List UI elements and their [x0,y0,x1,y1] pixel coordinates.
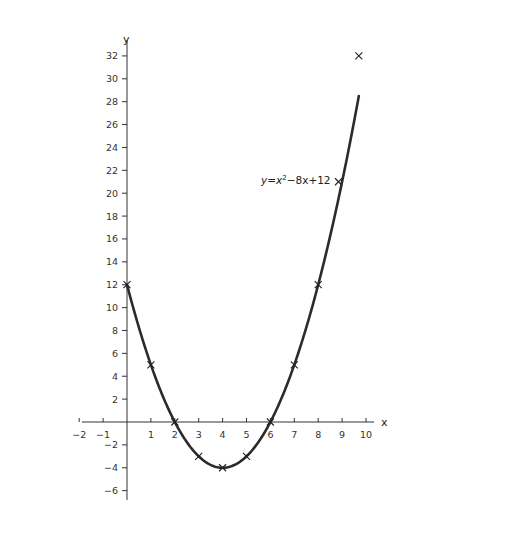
y-tick-label: 20 [106,188,118,199]
y-tick-label: 6 [112,348,118,359]
parabola-curve [127,96,359,468]
point-marker [195,453,202,460]
y-tick-label: 30 [106,73,118,84]
y-axis-label: y [123,33,130,46]
y-tick-label: 4 [112,371,118,382]
equation-suffix: −8x+12 [287,174,331,186]
y-tick-label: 22 [106,165,118,176]
y-tick-label: 2 [112,394,118,405]
y-tick-label: 26 [106,119,118,130]
y-tick-label: 14 [106,256,118,267]
parabola-chart: x y −2−112345678910 −6−4−224681012141618… [0,0,512,533]
x-tick-label: 2 [172,429,178,440]
y-tick-label: 8 [112,325,118,336]
y-tick-label: 18 [106,211,118,222]
y-tick-label: 28 [106,96,118,107]
y-tick-label: 10 [106,302,118,313]
x-tick-label: 3 [196,429,202,440]
y-tick-label: 32 [106,50,118,61]
data-point-markers [124,52,363,471]
equation-prefix: y=x [260,174,283,186]
y-tick-label: −6 [104,485,118,496]
x-tick-label: 7 [291,429,297,440]
x-axis-label: x [381,416,388,429]
equation-label: y=x2−8x+12 [260,174,331,186]
y-tick-label: −4 [104,462,118,473]
y-tick-label: 16 [106,233,118,244]
y-tick-label: 12 [106,279,118,290]
x-tick-label: 5 [243,429,249,440]
y-tick-label: 24 [106,142,118,153]
x-tick-label: 6 [267,429,273,440]
point-marker [355,52,362,59]
x-tick-label: 1 [148,429,154,440]
x-tick-label: 8 [315,429,321,440]
x-tick-label: −1 [96,429,110,440]
y-tick-label: −2 [104,439,118,450]
point-marker [243,453,250,460]
x-ticks: −2−112345678910 [72,418,372,440]
x-tick-label: 9 [339,429,345,440]
x-tick-label: −2 [72,429,86,440]
x-tick-label: 10 [360,429,372,440]
x-tick-label: 4 [220,429,226,440]
